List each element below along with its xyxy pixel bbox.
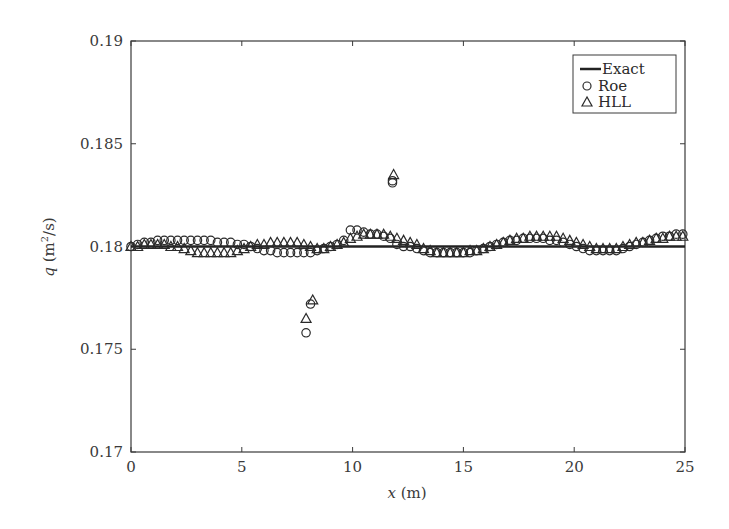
y-axis-label-unit-post: /s) xyxy=(40,217,58,236)
x-axis-label-unit: (m) xyxy=(396,484,427,502)
y-tick-label: 0.17 xyxy=(90,443,123,461)
x-tick-label: 5 xyxy=(237,458,247,476)
y-tick-label: 0.185 xyxy=(80,135,123,153)
y-axis-label-unit: (m xyxy=(40,242,58,267)
hll-point xyxy=(301,313,311,322)
y-tick-label: 0.19 xyxy=(90,32,123,50)
legend-exact-label: Exact xyxy=(602,60,645,78)
x-tick-label: 10 xyxy=(343,458,362,476)
x-tick-label: 0 xyxy=(126,458,136,476)
legend: Exact Roe HLL xyxy=(573,55,676,113)
chart: 0510152025 0.170.1750.180.1850.19 x (m) … xyxy=(0,0,729,529)
roe-point xyxy=(388,179,396,187)
y-tick-label: 0.175 xyxy=(80,340,123,358)
y-axis-label: q (m2/s) xyxy=(39,217,58,276)
y-axis-label-var: q xyxy=(40,267,58,277)
y-tick-label: 0.18 xyxy=(90,238,123,256)
x-tick-label: 25 xyxy=(675,458,694,476)
x-tick-label: 20 xyxy=(565,458,584,476)
x-tick-label: 15 xyxy=(454,458,473,476)
legend-hll-label: HLL xyxy=(598,93,631,111)
x-axis-label: x (m) xyxy=(387,484,426,502)
roe-point xyxy=(302,329,310,337)
